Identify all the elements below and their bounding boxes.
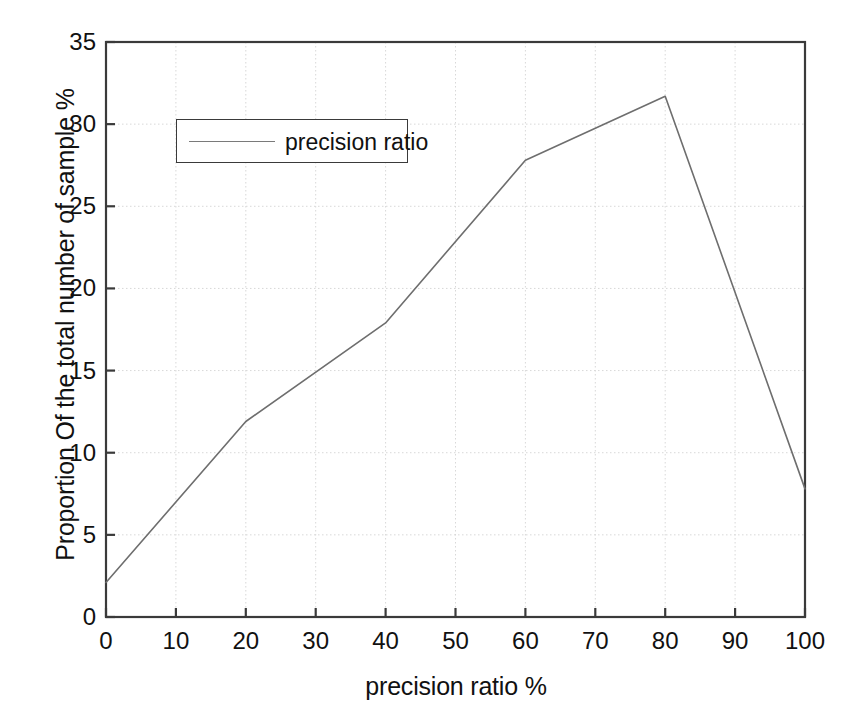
- chart-figure: Proportion Of the total number of sample…: [0, 0, 855, 720]
- legend-box: precision ratio: [176, 119, 408, 163]
- legend-entry-label: precision ratio: [285, 129, 428, 156]
- plot-area: [0, 0, 855, 720]
- legend-line-swatch: [189, 141, 275, 142]
